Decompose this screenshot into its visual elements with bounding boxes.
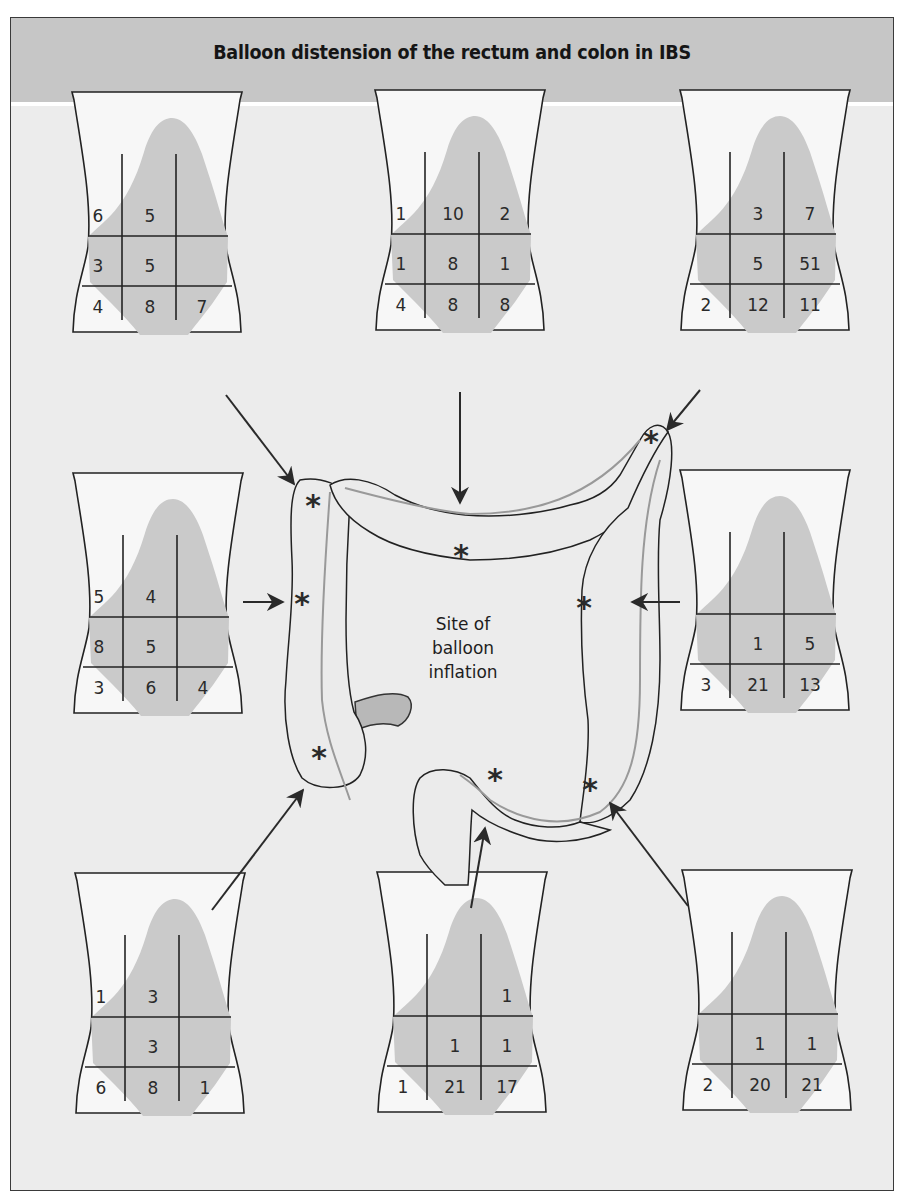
arrow-bottom-right [610,803,688,906]
cell-value: 13 [799,675,821,695]
cell-value: 51 [799,254,821,274]
cell-value: 7 [197,297,208,317]
cell-value: 12 [747,295,769,315]
cell-value: 8 [148,1078,159,1098]
cell-value: 8 [448,254,459,274]
arrow-top-right [667,390,700,430]
cell-value: 5 [145,206,156,226]
asterisk-splenic-flexure: * [643,424,659,459]
cell-value: 2 [500,204,511,224]
cell-value: 3 [94,678,105,698]
asterisk-ascending: * [294,586,310,621]
cell-value: 7 [805,204,816,224]
diagram-canvas: 6 5 3 5 4 8 7 1 10 2 1 8 1 4 8 8 3 7 5 5… [0,0,909,1203]
cell-value: 1 [500,254,511,274]
abdomen-panel-middle-left: 5 4 8 5 3 6 4 [73,473,243,716]
cell-value: 1 [396,254,407,274]
abdomen-panel-top-right: 3 7 5 51 2 12 11 [680,90,850,333]
asterisk-transverse: * [453,538,469,573]
cell-value: 3 [753,204,764,224]
cell-value: 20 [749,1075,771,1095]
abdomen-panel-top-center: 1 10 2 1 8 1 4 8 8 [375,90,545,333]
cell-value: 4 [396,295,407,315]
cell-value: 2 [703,1075,714,1095]
cell-value: 11 [799,295,821,315]
abdomen-panel-bottom-center: 1 1 1 1 21 17 [377,872,547,1115]
cell-value: 3 [148,987,159,1007]
cell-value: 1 [450,1036,461,1056]
cell-value: 1 [753,634,764,654]
caption-line-2: balloon [432,638,494,658]
cell-value: 8 [145,297,156,317]
cell-value: 5 [146,637,157,657]
cell-value: 1 [807,1034,818,1054]
abdomen-panel-middle-right: 1 5 3 21 13 [680,470,850,713]
abdomen-panel-bottom-right: 1 1 2 20 21 [682,870,852,1113]
cell-value: 6 [93,206,104,226]
cell-value: 6 [96,1078,107,1098]
cell-value: 3 [701,675,712,695]
cell-value: 1 [396,204,407,224]
cell-value: 1 [502,986,513,1006]
cell-value: 1 [96,987,107,1007]
abdomen-panel-top-left: 6 5 3 5 4 8 7 [72,92,242,335]
cell-value: 10 [442,204,464,224]
cell-value: 6 [146,678,157,698]
sigmoid-colon-rectum [413,770,610,885]
cell-value: 17 [496,1077,518,1097]
arrow-top-left [226,395,294,484]
cell-value: 1 [755,1034,766,1054]
cell-value: 21 [444,1077,466,1097]
caption-line-1: Site of [436,614,491,634]
asterisk-sigmoid-descending: * [582,772,598,807]
cell-value: 4 [146,587,157,607]
asterisk-descending: * [576,590,592,625]
cell-value: 3 [148,1037,159,1057]
cell-value: 2 [701,295,712,315]
arrow-bottom-left [212,790,303,910]
caption-line-3: inflation [428,662,497,682]
asterisk-sigmoid: * [487,762,503,797]
cell-value: 1 [398,1077,409,1097]
abdomen-panel-bottom-left: 1 3 3 6 8 1 [75,873,245,1116]
cell-value: 5 [805,634,816,654]
cell-value: 1 [200,1078,211,1098]
cell-value: 21 [747,675,769,695]
cell-value: 5 [753,254,764,274]
asterisk-hepatic-flexure: * [305,488,321,523]
cell-value: 8 [448,295,459,315]
cell-value: 3 [93,256,104,276]
cell-value: 1 [502,1036,513,1056]
cell-value: 21 [801,1075,823,1095]
cell-value: 8 [94,637,105,657]
appendix [355,694,411,730]
cell-value: 5 [145,256,156,276]
cell-value: 5 [94,587,105,607]
cell-value: 8 [500,295,511,315]
cell-value: 4 [198,678,209,698]
asterisk-caecum: * [311,740,327,775]
cell-value: 4 [93,297,104,317]
